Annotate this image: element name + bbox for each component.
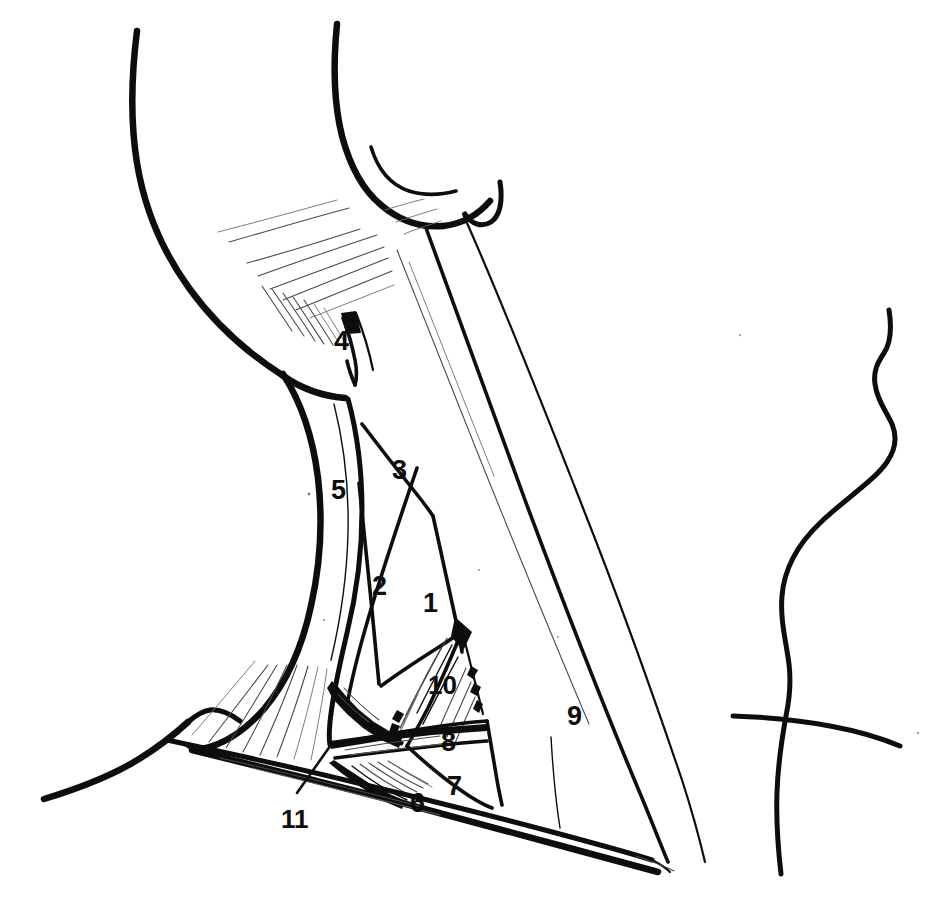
anatomy-line-drawing (0, 0, 939, 916)
anatomy-figure: 1 2 3 4 5 6 7 8 9 10 11 (0, 0, 939, 916)
omohyoid-inferior-belly (330, 721, 487, 758)
label-11-clavicular-attachment: 11 (281, 806, 309, 832)
label-5-sternocleidomastoid: 5 (331, 477, 346, 504)
label-8-omohyoid-inferior-belly: 8 (441, 729, 456, 756)
label-1-levator-scapulae: 1 (423, 590, 438, 617)
ear-outline (465, 182, 501, 225)
label-6-clavicle: 6 (410, 790, 425, 817)
trapezius-muscle (397, 214, 705, 862)
label-10-brachial-plexus-region: 10 (428, 672, 457, 698)
label-4-sternocleidomastoid-insertion: 4 (334, 328, 349, 355)
label-3-scalene: 3 (392, 457, 407, 484)
chest-profile-right (733, 310, 900, 874)
label-2-splenius-capitis: 2 (372, 573, 387, 600)
mandible-jaw-outline (132, 31, 282, 375)
label-9-trapezius: 9 (567, 703, 582, 730)
platysma-fascia-hatching (218, 199, 441, 318)
chin-contour (335, 24, 490, 226)
label-7-subclavius-region: 7 (447, 773, 462, 800)
